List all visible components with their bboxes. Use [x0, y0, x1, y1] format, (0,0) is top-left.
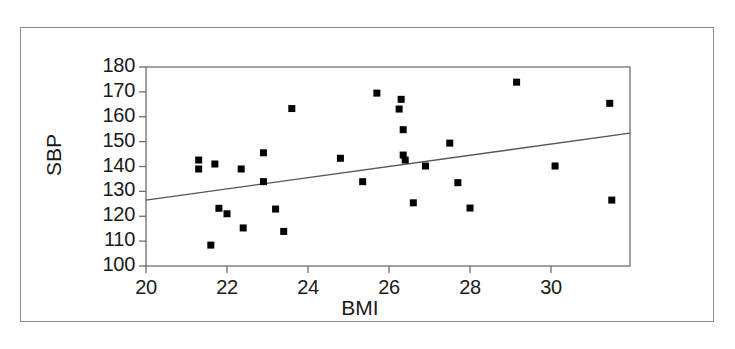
x-axis-title: BMI [300, 296, 420, 320]
y-axis-tick-label: 160 [87, 104, 135, 127]
data-point-marker [446, 140, 453, 147]
y-axis-tick-label: 100 [87, 253, 135, 276]
x-axis-tick-label: 20 [124, 276, 168, 299]
y-axis-tick-label: 140 [87, 154, 135, 177]
data-point-marker [608, 197, 615, 204]
data-point-marker [396, 106, 403, 113]
y-axis-tick-label: 180 [87, 54, 135, 77]
data-point-marker [195, 157, 202, 164]
data-point-marker [260, 149, 267, 156]
data-point-marker [373, 90, 380, 97]
data-point-marker [238, 165, 245, 172]
data-point-marker [454, 179, 461, 186]
data-point-marker [400, 126, 407, 133]
data-point-marker [410, 199, 417, 206]
data-point-marker [359, 178, 366, 185]
x-axis-tick-label: 28 [448, 276, 492, 299]
x-axis-tick-label: 22 [205, 276, 249, 299]
data-point-marker [207, 242, 214, 249]
data-point-marker [513, 79, 520, 86]
data-point-marker [398, 96, 405, 103]
y-axis-tick-label: 150 [87, 129, 135, 152]
data-point-marker [260, 178, 267, 185]
data-point-marker [552, 163, 559, 170]
data-point-marker [288, 105, 295, 112]
x-axis-tick-marks [146, 266, 551, 273]
data-point-marker [240, 224, 247, 231]
x-axis-tick-label: 30 [529, 276, 573, 299]
data-point-marker [606, 100, 613, 107]
data-point-marker [211, 161, 218, 168]
data-point-marker [224, 210, 231, 217]
y-axis-tick-marks [139, 67, 146, 266]
data-point-marker [280, 228, 287, 235]
data-point-marker [215, 205, 222, 212]
y-axis-title: SBP [42, 95, 66, 215]
data-point-marker [337, 155, 344, 162]
y-axis-tick-label: 170 [87, 79, 135, 102]
data-point-marker [272, 206, 279, 213]
data-point-marker [402, 157, 409, 164]
y-axis-tick-label: 110 [87, 228, 135, 251]
data-point-marker [422, 163, 429, 170]
data-point-marker [467, 205, 474, 212]
data-point-marker [195, 165, 202, 172]
chart-figure: 100110120130140150160170180 202224262830… [0, 0, 735, 349]
y-axis-tick-label: 130 [87, 178, 135, 201]
y-axis-tick-label: 120 [87, 203, 135, 226]
